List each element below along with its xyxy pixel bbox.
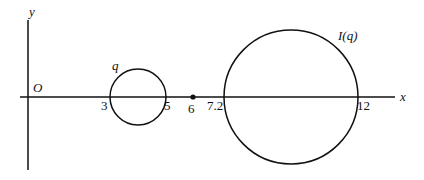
tick-5: 5	[164, 98, 171, 113]
diagram-svg: y O x q 3 5 6 7.2 12 I(q)	[0, 0, 424, 180]
circle-q-label: q	[112, 58, 119, 73]
tick-6: 6	[188, 101, 195, 116]
y-axis-label: y	[27, 4, 35, 19]
tick-12: 12	[357, 98, 370, 113]
tick-7-2: 7.2	[207, 98, 223, 113]
inversion-diagram: y O x q 3 5 6 7.2 12 I(q)	[0, 0, 424, 180]
center-point	[190, 94, 195, 99]
x-axis-label: x	[399, 89, 406, 104]
circle-inverse-q-label: I(q)	[337, 28, 358, 43]
tick-3: 3	[101, 98, 108, 113]
origin-label: O	[33, 80, 43, 95]
